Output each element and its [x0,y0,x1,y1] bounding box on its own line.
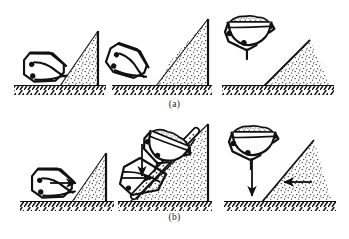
caption-row-a: (a) [0,99,349,109]
ground-a1 [14,86,106,95]
ground-b2 [118,202,212,211]
ground-b3 [224,202,336,211]
excavation-sequence-figure [0,0,349,239]
ground-a2 [112,86,212,95]
caption-row-b: (b) [0,212,349,222]
ground-a3 [222,86,334,95]
ground-b1 [20,202,114,211]
